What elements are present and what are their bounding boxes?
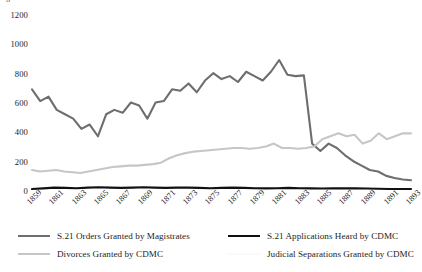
y-axis-tick: 0 xyxy=(0,186,28,196)
legend-item[interactable]: S.21 Applications Heard by CDMC xyxy=(228,228,398,244)
legend-label: S.21 Orders Granted by Magistrates xyxy=(57,231,190,241)
y-axis-tick: 1000 xyxy=(0,39,28,49)
y-axis-tick: 200 xyxy=(0,157,28,167)
series-layer xyxy=(32,60,411,189)
legend-label: Divorces Granted by CDMC xyxy=(57,249,163,259)
series-line xyxy=(32,133,411,173)
legend-swatch xyxy=(228,253,260,255)
legend-item[interactable]: S.21 Orders Granted by Magistrates xyxy=(18,228,190,244)
series-line xyxy=(32,60,411,180)
legend-swatch xyxy=(18,235,50,237)
legend-item[interactable]: Divorces Granted by CDMC xyxy=(18,246,163,262)
legend-swatch xyxy=(18,253,50,255)
legend-label: S.21 Applications Heard by CDMC xyxy=(267,231,398,241)
y-axis-tick: 800 xyxy=(0,69,28,79)
y-axis-tick: 400 xyxy=(0,127,28,137)
chart-canvas xyxy=(0,6,419,202)
chart-legend: S.21 Orders Granted by MagistratesS.21 A… xyxy=(0,228,419,272)
legend-label: Judicial Separations Granted by CDMC xyxy=(267,249,414,259)
x-axis-labels: 1859186118631865186718691871187318751877… xyxy=(0,198,419,224)
legend-item[interactable]: Judicial Separations Granted by CDMC xyxy=(228,246,414,262)
series-line xyxy=(32,187,411,189)
plot-area: 020040060080010001200 xyxy=(0,6,419,202)
legend-swatch xyxy=(228,235,260,237)
y-axis-tick: 1200 xyxy=(0,10,28,20)
figure-caption-clipped: Figure 1.1: Trends in Matrimonial Causes… xyxy=(0,0,419,2)
y-axis-tick: 600 xyxy=(0,98,28,108)
